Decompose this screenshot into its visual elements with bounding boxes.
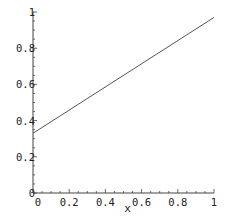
x-tick-label: 0.6 (132, 196, 151, 208)
y-tick-label: 0.6 (16, 78, 35, 90)
y-tick-label: 0.8 (16, 42, 35, 54)
line-series (33, 17, 214, 133)
x-tick-label: 0.2 (60, 196, 79, 208)
y-tick-label: 0.4 (16, 115, 35, 127)
line-chart: 00.20.40.60.81 00.20.40.60.81 x (0, 0, 227, 221)
y-axis: 00.20.40.60.81 (16, 6, 37, 199)
x-tick-label: 0.4 (96, 196, 115, 208)
x-tick-label: 0 (35, 196, 41, 208)
y-tick-label: 1 (29, 6, 35, 18)
x-axis-title: x (124, 202, 131, 215)
x-tick-label: 1 (211, 196, 217, 208)
y-tick-label: 0.2 (16, 151, 35, 163)
x-tick-label: 0.8 (168, 196, 187, 208)
plot-series (33, 17, 214, 133)
